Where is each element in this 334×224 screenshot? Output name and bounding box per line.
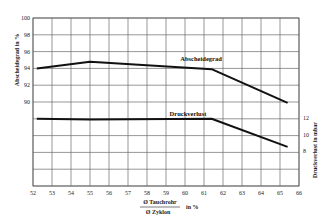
y-axis-label-left: Abscheidegrad in % bbox=[14, 34, 20, 86]
series-label-abscheidegrad: Abscheidegrad bbox=[180, 55, 222, 62]
y-tick-label-right: 8 bbox=[303, 148, 306, 154]
x-tick-label: 52 bbox=[30, 190, 36, 196]
series-label-druckverlust: Druckverlust bbox=[170, 110, 208, 117]
x-axis-label-denominator: Ø Zyklon bbox=[146, 209, 171, 215]
x-axis-label-numerator: Ø Tauchrohr bbox=[143, 199, 177, 205]
x-tick-label: 59 bbox=[163, 190, 169, 196]
y-tick-label-left: 96 bbox=[24, 49, 30, 55]
y-tick-label-left: 100 bbox=[21, 15, 30, 21]
x-tick-label: 58 bbox=[144, 190, 150, 196]
chart-curves bbox=[37, 62, 288, 147]
y-tick-label-left: 98 bbox=[24, 32, 30, 38]
y-tick-label-left: 94 bbox=[24, 65, 30, 71]
x-tick-label: 65 bbox=[277, 190, 283, 196]
x-tick-label: 61 bbox=[201, 190, 207, 196]
x-tick-label: 64 bbox=[258, 190, 264, 196]
x-tick-label: 62 bbox=[220, 190, 226, 196]
series-line-druckverlust bbox=[37, 119, 288, 147]
line-chart: 5253545556575859606162636465661009896949… bbox=[0, 0, 334, 224]
x-tick-label: 63 bbox=[239, 190, 245, 196]
y-tick-label-left: 92 bbox=[24, 82, 30, 88]
x-tick-label: 54 bbox=[68, 190, 74, 196]
x-tick-label: 66 bbox=[296, 190, 302, 196]
y-tick-label-left: 90 bbox=[24, 99, 30, 105]
y-axis-label-right: Druckverlust in mbar bbox=[312, 122, 318, 178]
series-line-abscheidegrad bbox=[37, 62, 288, 103]
x-tick-label: 56 bbox=[106, 190, 112, 196]
x-axis-label-unit: in % bbox=[186, 204, 199, 210]
y-tick-label-right: 10 bbox=[303, 132, 309, 138]
x-tick-label: 53 bbox=[49, 190, 55, 196]
x-tick-label: 55 bbox=[87, 190, 93, 196]
y-tick-label-right: 12 bbox=[303, 115, 309, 121]
chart-grid bbox=[33, 18, 299, 186]
x-tick-label: 60 bbox=[182, 190, 188, 196]
x-tick-label: 57 bbox=[125, 190, 131, 196]
